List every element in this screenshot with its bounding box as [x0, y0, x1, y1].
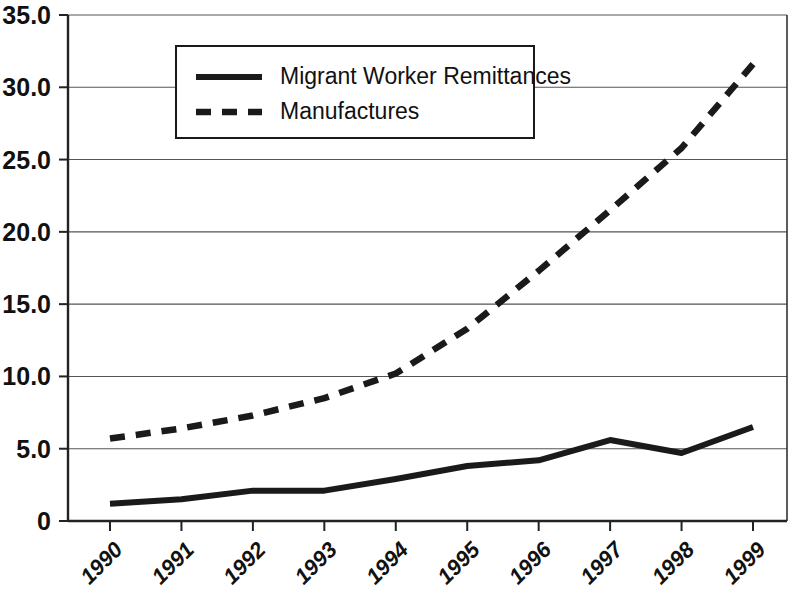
y-axis-tick-label: 10.0 [2, 362, 51, 390]
legend-box [176, 46, 534, 138]
legend-label-migrant-worker-remittances: Migrant Worker Remittances [280, 63, 571, 89]
legend: Migrant Worker Remittances Manufactures [176, 46, 571, 138]
y-axis-tick-label: 20.0 [2, 218, 51, 246]
y-axis-tick-label: 5.0 [16, 435, 51, 463]
line-chart: 35.030.025.020.015.010.05.00 19901991199… [0, 0, 793, 590]
y-axis-tick-label: 25.0 [2, 146, 51, 174]
y-axis-tick-label: 0 [37, 507, 51, 535]
chart-canvas: 35.030.025.020.015.010.05.00 19901991199… [0, 0, 793, 590]
y-axis-tick-label: 35.0 [2, 1, 51, 29]
y-axis-tick-label: 30.0 [2, 73, 51, 101]
legend-label-manufactures: Manufactures [280, 98, 419, 124]
y-axis-tick-label: 15.0 [2, 290, 51, 318]
